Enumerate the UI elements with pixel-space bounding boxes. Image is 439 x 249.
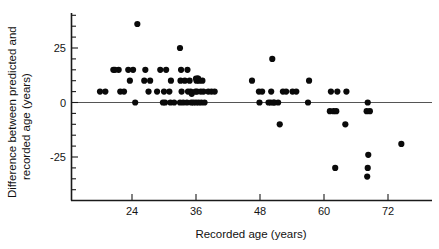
- data-point: [154, 89, 160, 95]
- y-tick-label: -25: [50, 151, 66, 163]
- data-point: [201, 99, 207, 105]
- data-point: [163, 67, 169, 73]
- data-point: [283, 89, 289, 95]
- data-point: [306, 78, 312, 84]
- data-point: [256, 99, 262, 105]
- data-point: [192, 89, 198, 95]
- data-point: [184, 67, 190, 73]
- x-tick-label: 72: [382, 205, 394, 217]
- y-tick-group: [72, 15, 79, 189]
- data-point: [328, 89, 334, 95]
- data-point: [364, 174, 370, 180]
- data-point: [130, 67, 136, 73]
- data-point: [179, 89, 185, 95]
- data-point: [198, 89, 204, 95]
- x-tick-label: 48: [254, 205, 266, 217]
- data-point: [121, 89, 127, 95]
- data-point: [190, 99, 196, 105]
- y-tick-label: 25: [54, 42, 66, 54]
- data-point: [333, 108, 339, 114]
- x-tick-group: [132, 194, 388, 201]
- data-point: [342, 121, 348, 127]
- data-point: [145, 89, 151, 95]
- data-point: [171, 99, 177, 105]
- data-point: [142, 67, 148, 73]
- x-tick-label: 60: [318, 205, 330, 217]
- data-point: [161, 89, 167, 95]
- data-point: [168, 78, 174, 84]
- data-point: [112, 67, 118, 73]
- chart-canvas: Difference between predicted and recorde…: [0, 0, 439, 249]
- y-axis-label-line2: recorded age (years): [20, 73, 32, 180]
- data-point: [332, 165, 338, 171]
- data-point: [178, 67, 184, 73]
- y-tick-label-group: 250-25: [50, 42, 66, 163]
- data-point: [166, 89, 172, 95]
- data-point: [212, 89, 218, 95]
- x-tick-label: 24: [126, 205, 138, 217]
- data-point: [177, 45, 183, 51]
- scatter-plot-figure: Difference between predicted and recorde…: [0, 0, 439, 249]
- data-point: [268, 89, 274, 95]
- data-point: [398, 141, 404, 147]
- data-point: [132, 99, 138, 105]
- data-point: [102, 89, 108, 95]
- y-tick-label: 0: [60, 97, 66, 109]
- data-point: [343, 89, 349, 95]
- data-point: [365, 99, 371, 105]
- data-point: [249, 78, 255, 84]
- x-tick-label-group: 2436486072: [126, 205, 394, 217]
- data-point: [270, 99, 276, 105]
- data-point: [97, 89, 103, 95]
- x-tick-label: 36: [190, 205, 202, 217]
- data-point: [193, 75, 199, 81]
- data-point: [305, 99, 311, 105]
- data-point: [277, 121, 283, 127]
- data-point: [293, 89, 299, 95]
- data-point: [365, 152, 371, 158]
- data-point: [365, 165, 371, 171]
- data-point: [259, 89, 265, 95]
- data-point: [367, 108, 373, 114]
- data-point: [127, 78, 133, 84]
- data-point: [157, 67, 163, 73]
- data-point: [160, 99, 166, 105]
- data-point: [141, 78, 147, 84]
- data-point: [147, 78, 153, 84]
- data-point: [269, 56, 275, 62]
- x-axis-label: Recorded age (years): [195, 228, 306, 240]
- data-point: [187, 78, 193, 84]
- data-point: [134, 21, 140, 27]
- data-point-group: [97, 21, 405, 180]
- data-point: [334, 89, 340, 95]
- y-axis-label-line1: Difference between predicted and: [6, 26, 18, 198]
